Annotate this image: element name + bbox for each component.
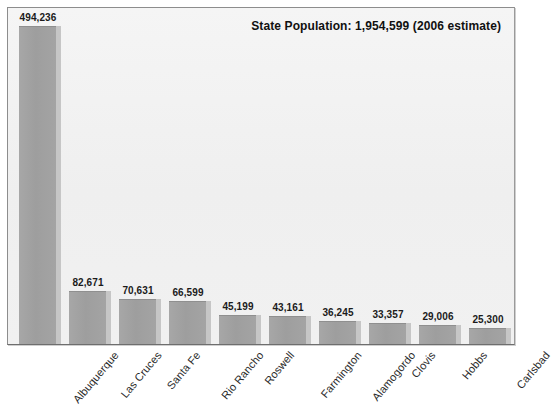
bar-fill [319,321,356,344]
axis-label-roswell: Roswell [262,349,296,387]
bar-value-label: 494,236 [10,12,66,23]
bar-fill [69,291,106,344]
axis-label-farmington: Farmington [318,349,364,400]
bar-rio-rancho: 66,599 [169,8,217,344]
bar-value-label: 29,006 [410,311,466,322]
bar-fill [119,299,156,344]
axis-label-hobbs: Hobbs [460,349,490,381]
bar-value-label: 70,631 [110,285,166,296]
bar-value-label: 25,300 [460,314,515,325]
axis-label-las-cruces: Las Cruces [118,349,164,400]
bar-fill [19,26,56,344]
axis-label-carlsbad: Carlsbad [514,349,552,391]
axis-label-alamogordo: Alamogordo [370,349,418,403]
chart-plot-frame: State Population: 1,954,599 (2006 estima… [7,7,515,345]
bar-value-label: 82,671 [60,277,116,288]
bar-value-label: 66,599 [160,287,216,298]
chart-plot-area: 494,23682,67170,63166,59945,19943,16136,… [8,8,514,344]
bar-value-label: 45,199 [210,301,266,312]
bar-fill [369,323,406,344]
axis-label-santa-fe: Santa Fe [164,349,202,392]
bar-value-label: 36,245 [310,307,366,318]
bar-fill [419,325,456,344]
bar-value-label: 43,161 [260,302,316,313]
bar-fill [219,315,256,344]
axis-label-rio-rancho: Rio Rancho [219,349,266,402]
bar-fill [169,301,206,344]
bar-albuquerque: 494,236 [19,8,67,344]
bar-fill [469,328,506,344]
bar-carlsbad: 25,300 [469,8,515,344]
bar-farmington: 43,161 [269,8,317,344]
axis-label-albuquerque: Albuquerque [71,349,121,405]
bar-hobbs: 29,006 [419,8,467,344]
bar-roswell: 45,199 [219,8,267,344]
bar-clovis: 33,357 [369,8,417,344]
bar-alamogordo: 36,245 [319,8,367,344]
bar-value-label: 33,357 [360,309,416,320]
bar-fill [269,316,306,344]
